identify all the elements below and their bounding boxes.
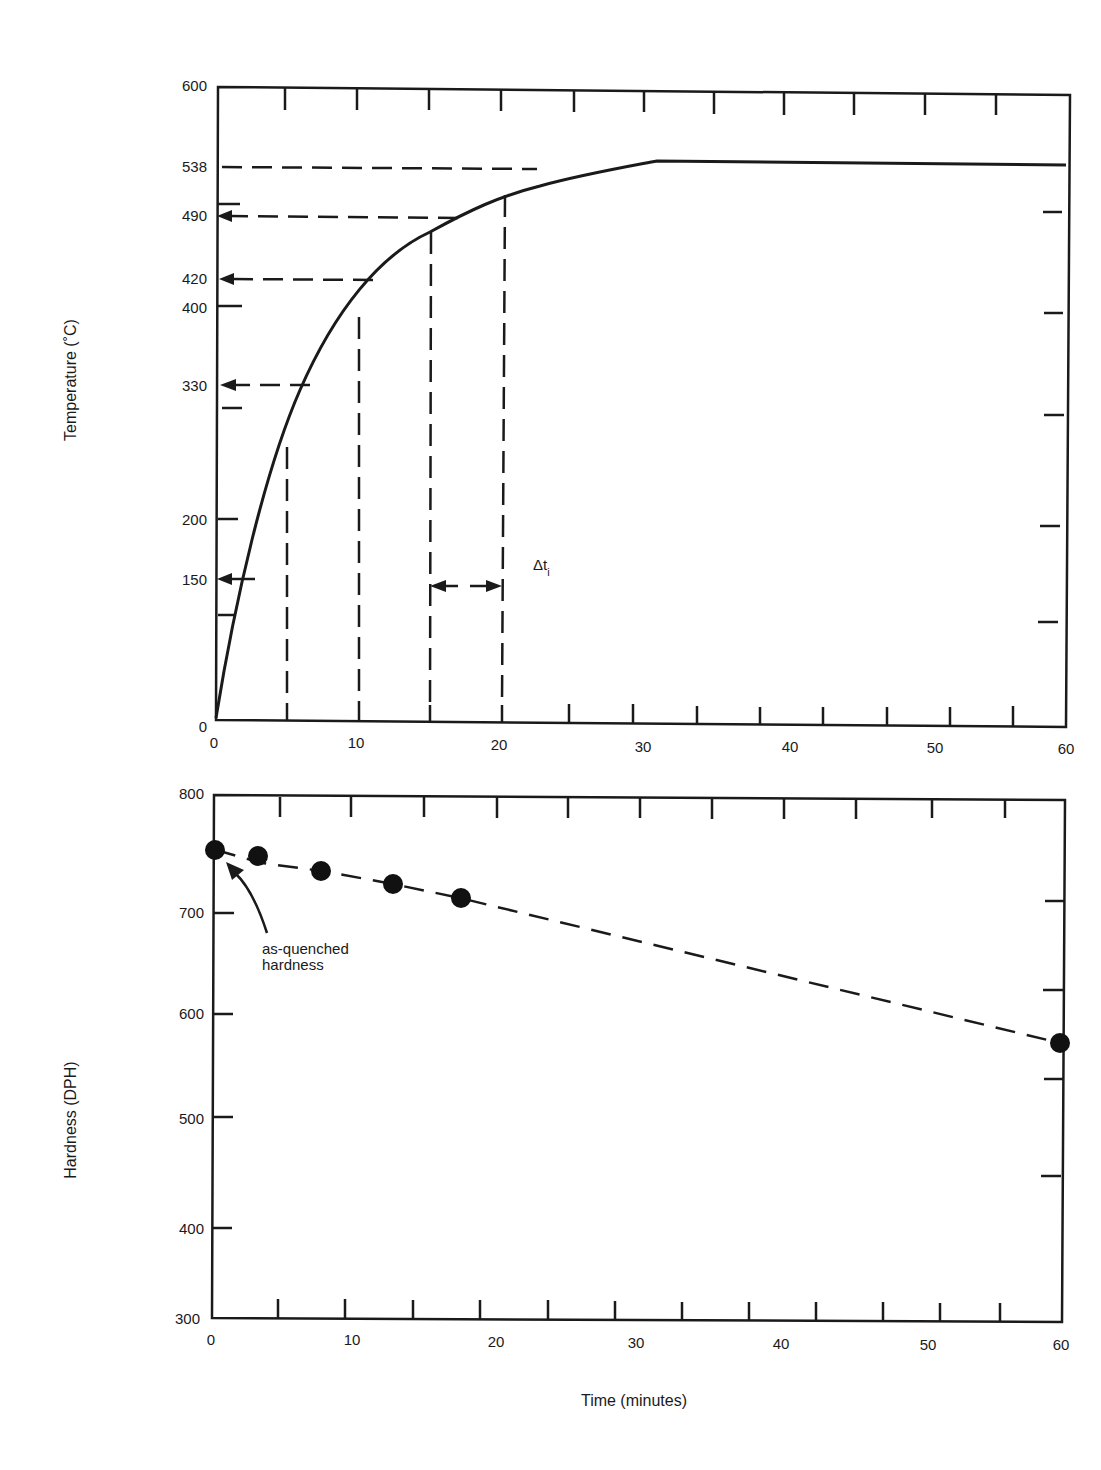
svg-text:0: 0 bbox=[210, 734, 218, 751]
heating-curve bbox=[216, 161, 1066, 718]
delta-t-label: Δti bbox=[533, 556, 550, 578]
svg-text:200: 200 bbox=[182, 511, 207, 528]
svg-text:10: 10 bbox=[348, 734, 365, 751]
delta-t-arrow bbox=[430, 580, 502, 592]
data-point bbox=[1050, 1033, 1070, 1053]
top-chart-left-ticks bbox=[218, 204, 242, 615]
svg-text:330: 330 bbox=[182, 377, 207, 394]
svg-text:538: 538 bbox=[182, 158, 207, 175]
svg-text:50: 50 bbox=[927, 739, 944, 756]
bottom-chart-top-ticks bbox=[280, 797, 1005, 819]
top-chart-right-ticks bbox=[1038, 212, 1064, 622]
svg-text:400: 400 bbox=[182, 299, 207, 316]
svg-text:490: 490 bbox=[182, 207, 207, 224]
annotation-line-2: hardness bbox=[262, 956, 324, 973]
svg-text:30: 30 bbox=[628, 1334, 645, 1351]
top-chart-frame bbox=[216, 87, 1070, 727]
svg-text:0: 0 bbox=[207, 1331, 215, 1348]
bottom-x-axis-labels: 0 10 20 30 40 50 60 bbox=[207, 1331, 1070, 1353]
svg-text:420: 420 bbox=[182, 270, 207, 287]
hardness-chart: as-quenched hardness 800 700 600 500 400… bbox=[62, 785, 1070, 1409]
top-y-axis-labels: 600 538 490 420 400 330 200 150 0 bbox=[182, 77, 207, 735]
svg-text:600: 600 bbox=[182, 77, 207, 94]
bottom-y-axis-labels: 800 700 600 500 400 300 bbox=[175, 785, 204, 1327]
svg-text:50: 50 bbox=[920, 1336, 937, 1353]
svg-text:60: 60 bbox=[1058, 740, 1075, 757]
svg-text:30: 30 bbox=[635, 738, 652, 755]
svg-text:300: 300 bbox=[175, 1310, 200, 1327]
svg-text:400: 400 bbox=[179, 1220, 204, 1237]
svg-text:10: 10 bbox=[344, 1331, 361, 1348]
bottom-chart-frame bbox=[212, 795, 1065, 1322]
svg-text:600: 600 bbox=[179, 1005, 204, 1022]
annotation-line-1: as-quenched bbox=[262, 940, 349, 957]
svg-text:700: 700 bbox=[179, 904, 204, 921]
hardness-axis-title: Hardness (DPH) bbox=[62, 1061, 79, 1178]
figure: Δti 600 538 490 420 400 330 200 150 0 0 … bbox=[0, 0, 1101, 1470]
bottom-chart-left-ticks bbox=[212, 913, 234, 1228]
svg-text:40: 40 bbox=[782, 738, 799, 755]
time-axis-title: Time (minutes) bbox=[581, 1392, 687, 1409]
svg-text:150: 150 bbox=[182, 571, 207, 588]
data-point bbox=[205, 840, 225, 860]
top-x-axis-labels: 0 10 20 30 40 50 60 bbox=[210, 734, 1075, 757]
data-point bbox=[248, 846, 268, 866]
svg-text:40: 40 bbox=[773, 1335, 790, 1352]
data-point bbox=[383, 874, 403, 894]
svg-text:60: 60 bbox=[1053, 1336, 1070, 1353]
svg-text:0: 0 bbox=[199, 718, 207, 735]
temperature-chart: Δti 600 538 490 420 400 330 200 150 0 0 … bbox=[62, 77, 1074, 757]
time-interval-lines bbox=[287, 195, 505, 705]
data-point bbox=[311, 861, 331, 881]
svg-text:20: 20 bbox=[491, 736, 508, 753]
svg-text:500: 500 bbox=[179, 1110, 204, 1127]
svg-text:20: 20 bbox=[488, 1333, 505, 1350]
temperature-axis-title: Temperature (˚C) bbox=[62, 319, 79, 441]
line-538-dashed bbox=[222, 167, 537, 169]
svg-text:800: 800 bbox=[179, 785, 204, 802]
data-point bbox=[451, 888, 471, 908]
as-quenched-arrow bbox=[235, 873, 267, 933]
temperature-arrows bbox=[217, 210, 458, 585]
arrowhead-icon bbox=[226, 862, 244, 880]
